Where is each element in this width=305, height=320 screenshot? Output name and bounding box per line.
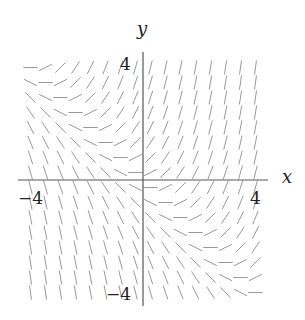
slope-segment — [88, 211, 93, 225]
slope-segment — [222, 196, 228, 209]
slope-segment — [209, 75, 212, 89]
slope-segment — [104, 256, 108, 270]
slope-segment — [207, 181, 213, 194]
slope-segment — [252, 226, 258, 239]
slope-segment — [194, 121, 198, 135]
slope-segment — [174, 199, 187, 205]
slope-segment — [194, 75, 197, 89]
slope-segment — [162, 256, 168, 269]
slope-segment — [100, 107, 110, 117]
slope-segment — [224, 136, 228, 150]
slope-field-plot — [0, 0, 305, 320]
slope-segment — [179, 106, 183, 120]
slope-segment — [118, 226, 123, 239]
slope-segment — [189, 244, 202, 250]
slope-segment — [74, 285, 76, 299]
slope-segment — [147, 137, 155, 149]
slope-segment — [102, 76, 108, 89]
slope-segment — [177, 151, 183, 164]
slope-segment — [24, 79, 37, 85]
slope-segment — [70, 77, 80, 87]
slope-segment — [254, 105, 256, 119]
slope-segment — [74, 240, 77, 254]
x-tick-label-neg4: −4 — [18, 190, 43, 207]
slope-segment — [160, 167, 170, 177]
slope-segment — [87, 167, 95, 179]
slope-segment — [117, 107, 125, 119]
slope-segment — [162, 136, 168, 149]
slope-segment — [238, 181, 243, 195]
slope-segment — [207, 197, 215, 209]
slope-segment — [238, 196, 243, 209]
slope-segment — [239, 90, 241, 104]
slope-segment — [209, 105, 212, 119]
slope-segment — [39, 94, 52, 100]
slope-segment — [224, 105, 227, 119]
slope-segment — [179, 75, 182, 89]
slope-segment — [209, 121, 213, 135]
slope-segment — [27, 107, 35, 119]
slope-segment — [57, 151, 63, 164]
slope-segment — [254, 90, 256, 104]
slope-segment — [102, 196, 108, 209]
slope-segment — [89, 270, 92, 284]
slope-segment — [104, 270, 107, 284]
slope-segment — [179, 91, 183, 105]
slope-segment — [205, 272, 215, 282]
slope-segment — [44, 270, 46, 284]
slope-segment — [132, 226, 138, 239]
slope-segment — [250, 257, 260, 267]
slope-segment — [25, 92, 35, 102]
slope-segment — [147, 227, 155, 239]
slope-segment — [115, 182, 125, 192]
slope-segment — [254, 166, 258, 180]
slope-segment — [27, 121, 33, 134]
slope-segment — [103, 211, 108, 224]
slope-segment — [219, 244, 232, 250]
slope-segment — [234, 289, 247, 295]
slope-segment — [130, 137, 140, 147]
slope-segment — [44, 255, 46, 269]
slope-segment — [220, 287, 230, 297]
slope-segment — [117, 91, 123, 104]
slope-segment — [164, 76, 168, 90]
slope-segment — [178, 121, 183, 135]
slope-segment — [208, 151, 213, 165]
slope-segment — [192, 272, 200, 284]
slope-segment — [209, 136, 213, 150]
slope-segment — [239, 151, 243, 165]
slope-segment — [193, 136, 198, 150]
slope-segment — [164, 91, 168, 105]
slope-segment — [72, 166, 78, 179]
slope-segment — [59, 255, 62, 269]
slope-segment — [29, 270, 31, 284]
slope-segment — [209, 60, 211, 74]
slope-segment — [237, 211, 243, 224]
slope-segment — [192, 286, 198, 299]
slope-segment — [220, 227, 230, 237]
slope-segment — [160, 227, 170, 237]
slope-segment — [59, 285, 61, 299]
slope-segment — [118, 76, 123, 89]
slope-segment — [89, 226, 93, 240]
slope-segment — [74, 270, 77, 284]
slope-segment — [69, 94, 82, 100]
slope-segment — [224, 60, 226, 74]
slope-segment — [89, 255, 92, 269]
slope-segment — [29, 255, 31, 269]
slope-segment — [252, 242, 260, 254]
slope-segment — [28, 151, 33, 165]
slope-segment — [99, 154, 112, 160]
slope-segment — [194, 106, 198, 120]
slope-segment — [89, 285, 92, 299]
slope-segment — [54, 109, 67, 115]
slope-segment — [132, 122, 140, 134]
slope-segment — [43, 151, 48, 164]
slope-segment — [132, 212, 140, 224]
y-axis-label: y — [137, 20, 147, 38]
slope-segment — [85, 92, 95, 102]
slope-segment — [149, 61, 153, 75]
slope-segment — [117, 211, 123, 224]
slope-segment — [204, 259, 217, 265]
slope-segment — [44, 240, 47, 254]
